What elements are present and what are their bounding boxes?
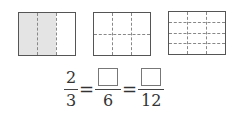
numerator: 2	[66, 69, 76, 87]
fraction-rectangle-sixths	[93, 12, 151, 56]
divider-line	[94, 34, 150, 35]
fraction-bar	[64, 89, 78, 90]
answer-box-numerator[interactable]	[141, 68, 161, 86]
fraction-over-six: 6	[95, 68, 121, 110]
fraction-bar	[138, 89, 164, 90]
divider-line	[169, 43, 225, 44]
fraction-bar	[95, 89, 121, 90]
divider-line	[169, 22, 225, 23]
denominator: 3	[66, 92, 76, 110]
fraction-equation: 2 3 = 6 = 12	[64, 64, 164, 114]
fraction-rectangle-thirds	[18, 12, 76, 56]
equals-sign: =	[79, 79, 94, 100]
divider-line	[56, 13, 57, 55]
divider-line	[37, 13, 38, 55]
denominator: 12	[141, 92, 161, 110]
fraction-over-twelve: 12	[138, 68, 164, 110]
fraction-two-thirds: 2 3	[64, 69, 78, 110]
denominator: 6	[103, 92, 113, 110]
fraction-rectangle-twelfths	[168, 11, 226, 55]
answer-box-numerator[interactable]	[98, 68, 118, 86]
divider-line	[169, 33, 225, 34]
equals-sign: =	[122, 79, 137, 100]
